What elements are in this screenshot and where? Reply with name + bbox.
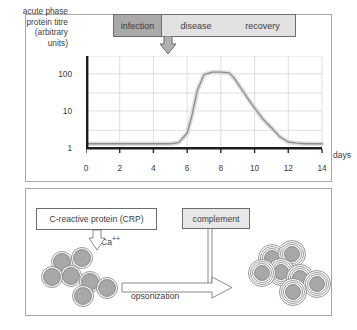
chart-plot-area <box>86 56 332 160</box>
infection-onset-arrow <box>160 36 176 55</box>
y-axis-label-line-3: (arbitrary <box>2 27 68 38</box>
y-axis-label-line-1: acute phase <box>2 6 68 17</box>
x-tick-0: 0 <box>84 163 89 173</box>
x-tick-4: 4 <box>151 163 156 173</box>
y-axis-tick-labels: 100 10 1 <box>44 56 72 160</box>
calcium-charge: ++ <box>112 235 120 242</box>
x-tick-10: 10 <box>250 163 259 173</box>
phase-label-disease: disease <box>180 21 211 31</box>
calcium-label: Ca++ <box>101 235 120 247</box>
phase-segment-infection: infection <box>114 15 162 36</box>
complement-label-box: complement <box>182 208 250 229</box>
phase-segment-recovery: recovery <box>230 15 295 36</box>
x-tick-12: 12 <box>284 163 293 173</box>
x-axis-tick-labels: 02468101214 <box>0 163 357 175</box>
phase-label-recovery: recovery <box>245 21 280 31</box>
x-tick-8: 8 <box>219 163 224 173</box>
x-axis-label: days <box>333 150 351 160</box>
x-tick-14: 14 <box>317 163 326 173</box>
phase-label-infection: infection <box>121 21 155 31</box>
plot-background <box>86 56 322 148</box>
phase-segment-disease: disease <box>162 15 230 36</box>
phase-bar: infection disease recovery <box>113 14 296 37</box>
y-tick-10: 10 <box>63 106 72 116</box>
y-tick-1: 1 <box>67 143 72 153</box>
complement-label: complement <box>193 214 240 224</box>
x-tick-6: 6 <box>185 163 190 173</box>
crp-label-box: C-reactive protein (CRP) <box>36 208 157 230</box>
figure-canvas: infection disease recovery acute phase p… <box>0 0 357 330</box>
y-axis-label-line-4: units) <box>2 38 68 49</box>
y-tick-100: 100 <box>58 69 72 79</box>
y-axis-label: acute phase protein titre (arbitrary uni… <box>2 6 68 48</box>
calcium-symbol: Ca <box>101 237 112 247</box>
x-tick-2: 2 <box>117 163 122 173</box>
opsonization-label: opsonization <box>131 291 179 301</box>
y-axis-label-line-2: protein titre <box>2 17 68 28</box>
crp-label: C-reactive protein (CRP) <box>49 214 143 224</box>
